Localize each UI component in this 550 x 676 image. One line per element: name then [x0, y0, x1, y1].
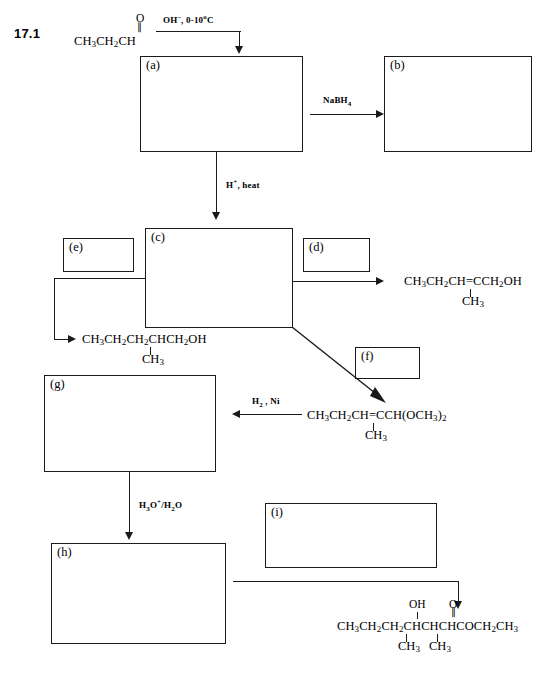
carbonyl-double-bond: ∥ [137, 25, 142, 29]
nabh4-arrowhead [376, 110, 384, 118]
e-path-arrowhead [68, 335, 76, 343]
nabh4-arrow-line [310, 114, 378, 115]
answer-box-e[interactable]: (e) [63, 238, 134, 272]
reagent-label-nabh4: NaBH4 [323, 95, 352, 108]
reagent-label-hydrolysis: H3O+/H2O [139, 498, 182, 513]
final-product-carbonyl-bond: ∥ [451, 610, 456, 614]
answer-box-c-label: (c) [151, 230, 165, 245]
answer-box-c[interactable]: (c) [145, 228, 293, 328]
i-path-vertical-segment [458, 581, 459, 603]
answer-box-b[interactable]: (b) [384, 56, 532, 152]
final-product-hydroxyl-bond [417, 612, 418, 619]
answer-box-g-label: (g) [50, 377, 65, 392]
final-product-right-branch-label: CH3 [429, 639, 451, 654]
reaction-scheme-diagram: 17.1 O ∥ CH3CH2CH OH–, 0-10oC (a) NaBH4 … [0, 0, 550, 676]
answer-box-g[interactable]: (g) [44, 375, 216, 472]
answer-box-e-label: (e) [69, 240, 83, 255]
final-product-chain: CH3CH2CH2CHCHCHCOCH2CH3 [337, 619, 518, 634]
h2-ni-arrowhead [232, 410, 240, 418]
step1-arrowhead [235, 46, 243, 54]
answer-box-b-label: (b) [390, 58, 405, 73]
answer-box-d[interactable]: (d) [303, 238, 370, 272]
reagent-label-step1: OH–, 0-10oC [163, 13, 214, 25]
i-path-horizontal-segment [233, 581, 459, 582]
answer-box-h-label: (h) [57, 545, 72, 560]
h-plus-heat-arrow-line [216, 152, 217, 214]
product-d-chain: CH3CH2CH=CCH2OH [404, 274, 522, 289]
final-product-hydroxyl-label: OH [409, 598, 426, 610]
acetal-chain: CH3CH2CH=CCH(OCH3)2 [307, 408, 447, 423]
answer-box-i[interactable]: (i) [265, 503, 437, 568]
reagent-label-h2-ni: H2 , Ni [252, 396, 280, 409]
h2-ni-arrow-line [240, 414, 302, 415]
answer-box-a-label: (a) [146, 58, 160, 73]
answer-box-i-label: (i) [271, 505, 283, 520]
product-d-branch-label: CH3 [462, 294, 484, 309]
hydrolysis-arrow-line [129, 472, 130, 534]
step1-arrow-horizontal [156, 31, 241, 32]
d-path-arrowhead [376, 277, 384, 285]
final-product-left-branch-label: CH3 [398, 639, 420, 654]
starting-material-formula: CH3CH2CH [74, 34, 136, 49]
acetal-branch-label: CH3 [365, 428, 387, 443]
product-e-branch-label: CH3 [142, 352, 164, 367]
e-path-top-segment [54, 278, 145, 279]
reagent-label-h-plus-heat: H+, heat [226, 178, 260, 190]
d-path-arrow-line [293, 281, 378, 282]
e-path-vertical-segment [54, 278, 55, 340]
f-path-diagonal-arrow [290, 325, 400, 410]
answer-box-a[interactable]: (a) [140, 56, 303, 152]
hydrolysis-arrowhead [125, 532, 133, 540]
h-plus-heat-arrowhead [212, 212, 220, 220]
problem-number: 17.1 [14, 26, 40, 41]
answer-box-d-label: (d) [309, 240, 324, 255]
answer-box-h[interactable]: (h) [51, 543, 226, 644]
product-e-chain: CH3CH2CH2CHCH2OH [82, 332, 207, 347]
